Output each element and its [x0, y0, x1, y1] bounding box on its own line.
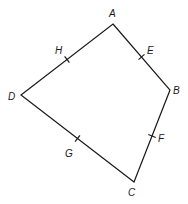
tick-mark-h [65, 56, 70, 62]
midpoint-label-h: H [55, 45, 63, 56]
vertex-label-c: C [128, 187, 136, 198]
midpoint-label-g: G [65, 148, 73, 159]
tick-mark-g [75, 135, 80, 141]
midpoint-label-e: E [147, 45, 154, 56]
vertex-label-a: A [108, 8, 116, 19]
quadrilateral-diagram: A B C D E F G H [0, 0, 188, 204]
vertex-label-d: D [8, 91, 15, 102]
vertex-label-b: B [173, 85, 180, 96]
midpoint-label-f: F [158, 133, 165, 144]
